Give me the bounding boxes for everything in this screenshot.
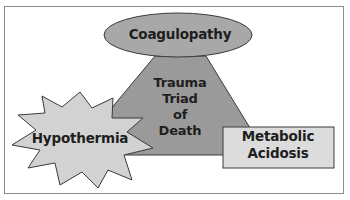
triad-line-2: Triad — [148, 91, 212, 107]
hypothermia-label: Hypothermia — [25, 131, 135, 145]
coagulopathy-label: Coagulopathy — [105, 27, 255, 41]
triad-label: Trauma Triad of Death — [148, 75, 212, 139]
triad-line-3: of — [148, 107, 212, 123]
metabolic-line-1: Metabolic — [222, 128, 334, 145]
triad-line-4: Death — [148, 123, 212, 139]
metabolic-acidosis-label: Metabolic Acidosis — [222, 128, 334, 162]
metabolic-line-2: Acidosis — [222, 145, 334, 162]
triad-line-1: Trauma — [148, 75, 212, 91]
